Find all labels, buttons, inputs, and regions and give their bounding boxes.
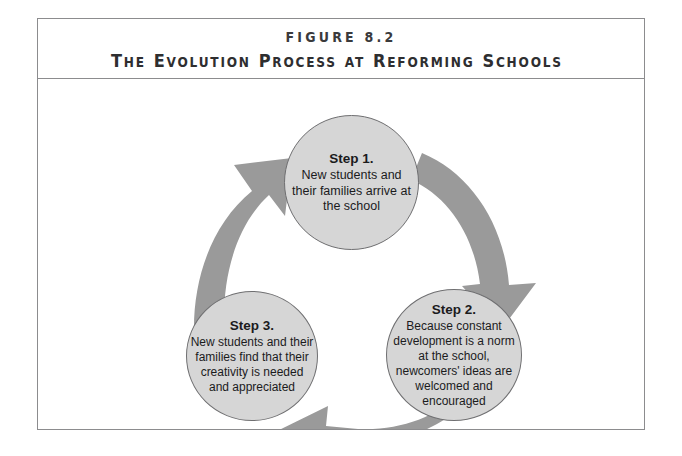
step-3-node[interactable]: Step 3. New students and their families … (186, 291, 318, 421)
figure-title-block: FIGURE 8.2 THEEVOLUTIONPROCESSATREFORMIN… (38, 19, 644, 79)
title-word: THE (111, 50, 146, 73)
title-word: AT (345, 51, 365, 73)
step-1-node[interactable]: Step 1. New students and their families … (284, 115, 419, 250)
title-word: REFORMING (373, 50, 475, 73)
title-word: SCHOOLS (483, 50, 563, 73)
step-1-body: New students and their families arrive a… (285, 168, 418, 215)
figure-number-label: FIGURE 8.2 (38, 28, 644, 47)
step-1-heading: Step 1. (329, 150, 373, 167)
figure-title: THEEVOLUTIONPROCESSATREFORMINGSCHOOLS (38, 50, 644, 73)
cycle-diagram: Step 1. New students and their families … (38, 79, 644, 429)
step-3-heading: Step 3. (230, 317, 274, 334)
step-2-body: Because constant development is a norm a… (387, 319, 521, 409)
title-word: PROCESS (259, 50, 337, 73)
figure-frame: FIGURE 8.2 THEEVOLUTIONPROCESSATREFORMIN… (37, 18, 645, 430)
step-2-heading: Step 2. (432, 301, 476, 318)
step-2-node[interactable]: Step 2. Because constant development is … (386, 289, 522, 421)
step-3-body: New students and their families find tha… (187, 335, 317, 395)
title-word: EVOLUTION (154, 50, 251, 73)
